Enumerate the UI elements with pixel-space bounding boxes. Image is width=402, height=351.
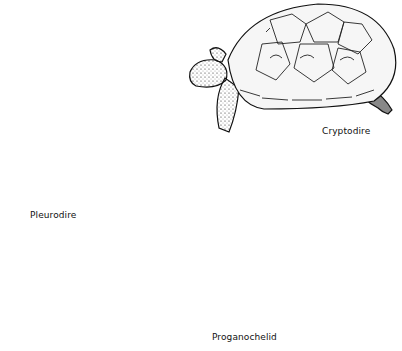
illustration-canvas bbox=[0, 0, 402, 351]
turtle-label-proganochelid: Proganochelid bbox=[212, 332, 277, 342]
cryptodire-turtle bbox=[190, 4, 396, 132]
turtle-label-cryptodire: Cryptodire bbox=[322, 126, 370, 136]
turtle-label-pleurodire: Pleurodire bbox=[30, 210, 76, 220]
turtle-illustration: Cryptodire Pleurodire Proganochelid bbox=[0, 0, 402, 351]
